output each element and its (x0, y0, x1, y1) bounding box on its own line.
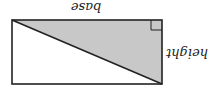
rectangle-triangle-diagram: base height (0, 0, 215, 91)
base-label: base (70, 0, 101, 15)
height-label: height (165, 46, 208, 61)
